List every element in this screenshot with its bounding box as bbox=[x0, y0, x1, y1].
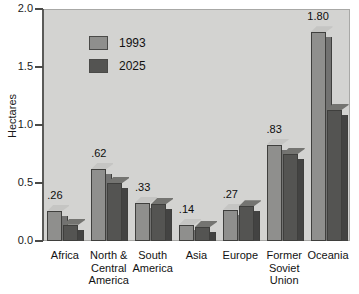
legend-swatch-1993 bbox=[89, 36, 108, 50]
y-tick-label: 0.0 bbox=[0, 235, 33, 246]
bar-value-label: 1.80 bbox=[304, 11, 333, 22]
bar-africa-2025 bbox=[63, 225, 78, 241]
y-tick-mark bbox=[35, 240, 43, 242]
y-tick-label: 0.5 bbox=[0, 177, 33, 188]
bar-front-face bbox=[223, 210, 238, 241]
bar-value-label: .62 bbox=[84, 148, 113, 159]
y-tick-label: 2.0 bbox=[0, 3, 33, 14]
x-label-line: Central bbox=[87, 262, 131, 275]
x-axis-label-oceania: Oceania bbox=[306, 249, 350, 262]
bar-south-america-2025 bbox=[151, 204, 166, 241]
y-tick-label: 1.5 bbox=[0, 61, 33, 72]
x-label-line: Africa bbox=[43, 249, 87, 262]
bar-front-face bbox=[267, 145, 282, 241]
bar-side-face bbox=[298, 159, 304, 241]
bar-north-central-america-2025 bbox=[107, 183, 122, 241]
x-axis-label-asia: Asia bbox=[175, 249, 219, 262]
bar-front-face bbox=[179, 225, 194, 241]
x-label-line: America bbox=[87, 274, 131, 287]
bar-side-face bbox=[254, 211, 260, 241]
bar-asia-2025 bbox=[195, 227, 210, 241]
x-axis-label-europe: Europe bbox=[218, 249, 262, 262]
bar-north-central-america-1993 bbox=[91, 169, 106, 241]
bar-front-face bbox=[283, 154, 298, 241]
bar-former-soviet-union-1993 bbox=[267, 145, 282, 241]
y-tick-mark bbox=[35, 182, 43, 184]
bar-value-label: .14 bbox=[172, 204, 201, 215]
bar-value-label: .33 bbox=[128, 182, 157, 193]
bar-front-face bbox=[327, 110, 342, 241]
x-label-line: Europe bbox=[218, 249, 262, 262]
bar-front-face bbox=[151, 204, 166, 241]
x-label-line: South bbox=[131, 249, 175, 262]
bar-side-face bbox=[210, 232, 216, 241]
bar-front-face bbox=[239, 206, 254, 241]
y-tick-mark bbox=[35, 124, 43, 126]
bar-europe-2025 bbox=[239, 206, 254, 241]
x-axis-label-south-america: SouthAmerica bbox=[131, 249, 175, 274]
x-axis-label-former-soviet-union: FormerSovietUnion bbox=[262, 249, 306, 287]
legend-item-1993: 1993 bbox=[89, 33, 185, 53]
y-tick-mark bbox=[35, 8, 43, 10]
legend-label-1993: 1993 bbox=[119, 37, 146, 49]
bar-value-label: .83 bbox=[260, 124, 289, 135]
x-label-line: Union bbox=[262, 274, 306, 287]
bar-front-face bbox=[91, 169, 106, 241]
x-label-line: Soviet bbox=[262, 262, 306, 275]
bar-front-face bbox=[135, 203, 150, 241]
y-axis-title: Hectares bbox=[6, 81, 18, 151]
y-tick-mark bbox=[35, 66, 43, 68]
legend-item-2025: 2025 bbox=[89, 56, 185, 76]
bar-side-face bbox=[78, 230, 84, 241]
bar-former-soviet-union-2025 bbox=[283, 154, 298, 241]
bar-side-face bbox=[122, 188, 128, 241]
bar-front-face bbox=[107, 183, 122, 241]
chart-legend: 1993 2025 bbox=[89, 33, 185, 79]
bar-front-face bbox=[311, 32, 326, 241]
legend-label-2025: 2025 bbox=[119, 60, 146, 72]
x-axis-label-africa: Africa bbox=[43, 249, 87, 262]
bar-front-face bbox=[195, 227, 210, 241]
x-label-line: America bbox=[131, 262, 175, 275]
x-label-line: Asia bbox=[175, 249, 219, 262]
bar-value-label: .26 bbox=[40, 190, 69, 201]
bar-oceania-1993 bbox=[311, 32, 326, 241]
x-label-line: North & bbox=[87, 249, 131, 262]
x-label-line: Former bbox=[262, 249, 306, 262]
x-label-line: Oceania bbox=[306, 249, 350, 262]
x-axis-label-north-central-america: North &CentralAmerica bbox=[87, 249, 131, 287]
bar-value-label: .27 bbox=[216, 189, 245, 200]
bar-front-face bbox=[63, 225, 78, 241]
bar-europe-1993 bbox=[223, 210, 238, 241]
legend-swatch-2025 bbox=[89, 59, 108, 73]
bar-chart-figure: 2.01.51.00.50.0 Hectares 1993 2025 .26.6… bbox=[0, 0, 359, 294]
bar-oceania-2025 bbox=[327, 110, 342, 241]
bar-front-face bbox=[47, 211, 62, 241]
bar-africa-1993 bbox=[47, 211, 62, 241]
bar-asia-1993 bbox=[179, 225, 194, 241]
bar-south-america-1993 bbox=[135, 203, 150, 241]
bar-side-face bbox=[342, 115, 348, 241]
